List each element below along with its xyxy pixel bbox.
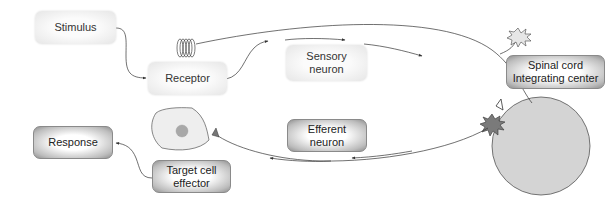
efferent-neuron-label-1: Efferent	[308, 123, 346, 136]
target-cell-label-2: effector	[166, 177, 216, 190]
receptor-to-sensory-arrow	[226, 41, 268, 79]
efferent-neuron-label-2: neuron	[308, 136, 346, 149]
neuromuscular-junction-icon	[212, 128, 219, 137]
sensory-neuron-box: Sensory neuron	[286, 45, 367, 81]
spinal-cord-circle	[492, 97, 590, 195]
synapse-terminal-icon	[496, 99, 503, 110]
stimulus-label: Stimulus	[54, 21, 96, 34]
receptor-box: Receptor	[148, 62, 227, 95]
receptor-label: Receptor	[165, 72, 210, 85]
sensory-neuron-label-1: Sensory	[306, 50, 346, 63]
efferent-neuron-box: Efferent neuron	[287, 119, 367, 152]
target-to-response-arrow	[116, 143, 152, 178]
integrating-center-label-2: Integrating center	[513, 72, 599, 85]
response-label: Response	[48, 136, 98, 149]
sensory-arrow-2	[364, 44, 422, 56]
receptor-coil-icon	[177, 39, 195, 57]
stimulus-box: Stimulus	[35, 11, 116, 44]
sensory-neuron-body-icon	[507, 28, 531, 47]
response-box: Response	[33, 126, 113, 159]
target-cell-label-1: Target cell	[166, 164, 216, 177]
sensory-neuron-label-2: neuron	[306, 63, 346, 76]
target-cell-nucleus-icon	[176, 125, 188, 137]
target-cell-box: Target cell effector	[152, 160, 231, 193]
stimulus-to-receptor-arrow	[116, 28, 146, 78]
integrating-center-label-1: Spinal cord	[513, 59, 599, 72]
integrating-center-box: Spinal cord Integrating center	[506, 55, 605, 89]
sensory-arrow-1	[285, 39, 345, 41]
